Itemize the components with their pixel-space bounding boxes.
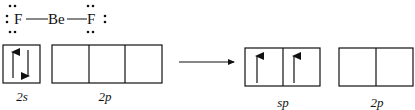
- lewis-structure: F Be F: [6, 5, 107, 34]
- left-fluorine: F: [14, 11, 22, 27]
- label-2p-ground: 2p: [99, 89, 113, 104]
- label-2p-hybridized: 2p: [371, 95, 385, 110]
- be-hybridization-diagram: F Be F 2s 2p sp 2p: [0, 0, 415, 110]
- label-2s: 2s: [16, 89, 28, 104]
- orbital-sp: [245, 48, 320, 86]
- orbital-2p-hybridized: [339, 48, 413, 86]
- right-fluorine: F: [87, 11, 95, 27]
- beryllium: Be: [48, 11, 65, 27]
- orbital-2p-ground: [52, 45, 162, 83]
- orbital-2s: [3, 45, 40, 83]
- label-sp: sp: [277, 95, 289, 110]
